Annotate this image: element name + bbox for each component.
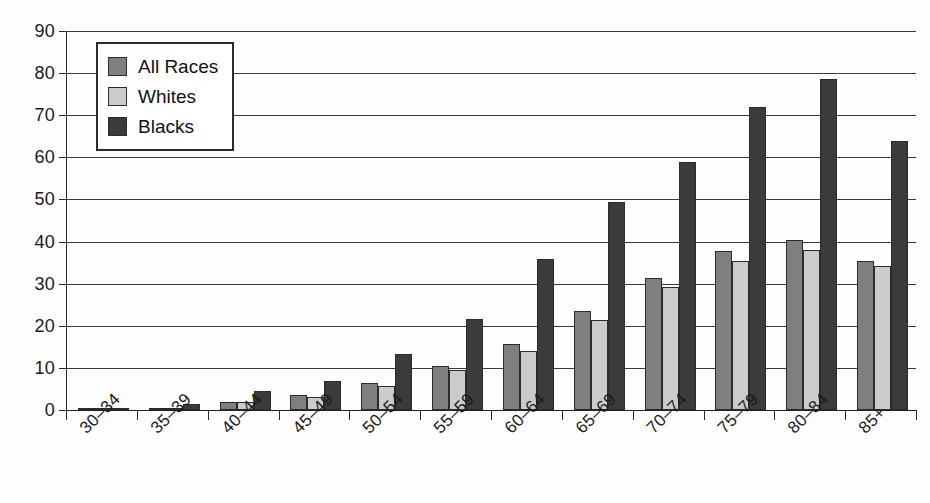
x-tick-40–44 (208, 411, 209, 420)
chart-legend: All Races Whites Blacks (96, 42, 234, 151)
bar-80–84-whites[interactable] (803, 250, 820, 410)
y-tick-label-wrap-40: 40 (0, 233, 55, 251)
x-tick-end (916, 411, 917, 420)
bar-85+-whites[interactable] (874, 266, 891, 410)
x-tick-70–74 (633, 411, 634, 420)
bar-group-65–69 (574, 31, 625, 410)
y-tick-label-wrap-80: 80 (0, 64, 55, 82)
bar-75–79-whites[interactable] (732, 261, 749, 410)
y-tick-0 (59, 410, 66, 411)
bar-group-70–74 (645, 31, 696, 410)
y-tick-label-30: 30 (11, 275, 55, 293)
bar-group-60–64 (503, 31, 554, 410)
y-tick-label-70: 70 (11, 106, 55, 124)
y-tick-label-20: 20 (11, 317, 55, 335)
bar-65–69-blacks[interactable] (608, 202, 625, 410)
x-tick-55–59 (420, 411, 421, 420)
x-tick-65–69 (562, 411, 563, 420)
bar-70–74-blacks[interactable] (679, 162, 696, 410)
legend-swatch-whites-icon (108, 87, 127, 106)
bar-group-85+ (857, 31, 908, 410)
y-tick-80 (59, 73, 66, 74)
y-tick-label-wrap-0: 0 (0, 401, 55, 419)
bar-60–64-blacks[interactable] (537, 259, 554, 410)
bar-55–59-all-races[interactable] (432, 366, 449, 410)
y-tick-10 (59, 368, 66, 369)
y-tick-label-wrap-60: 60 (0, 148, 55, 166)
y-tick-50 (59, 199, 66, 200)
legend-swatch-all-races-icon (108, 57, 127, 76)
y-tick-label-wrap-70: 70 (0, 106, 55, 124)
bar-80–84-all-races[interactable] (786, 240, 803, 410)
bar-group-50–54 (361, 31, 412, 410)
bar-group-55–59 (432, 31, 483, 410)
x-tick-80–84 (774, 411, 775, 420)
y-tick-label-60: 60 (11, 148, 55, 166)
x-tick-45–49 (279, 411, 280, 420)
x-tick-85+ (845, 411, 846, 420)
y-tick-label-10: 10 (11, 359, 55, 377)
y-tick-label-wrap-20: 20 (0, 317, 55, 335)
bar-85+-all-races[interactable] (857, 261, 874, 410)
bar-group-75–79 (715, 31, 766, 410)
bar-60–64-all-races[interactable] (503, 344, 520, 410)
legend-label-all-races: All Races (138, 57, 218, 76)
y-tick-label-wrap-30: 30 (0, 275, 55, 293)
bar-85+-blacks[interactable] (891, 141, 908, 410)
y-tick-label-40: 40 (11, 233, 55, 251)
bar-group-80–84 (786, 31, 837, 410)
y-tick-label-90: 90 (11, 22, 55, 40)
y-tick-70 (59, 115, 66, 116)
bar-65–69-all-races[interactable] (574, 311, 591, 410)
y-tick-label-wrap-50: 50 (0, 190, 55, 208)
legend-swatch-blacks-icon (108, 117, 127, 136)
x-tick-30–34 (66, 411, 67, 420)
bar-80–84-blacks[interactable] (820, 79, 837, 410)
y-tick-label-wrap-10: 10 (0, 359, 55, 377)
y-tick-30 (59, 284, 66, 285)
legend-item-2[interactable]: Blacks (108, 111, 218, 141)
bar-70–74-all-races[interactable] (645, 278, 662, 410)
y-tick-90 (59, 31, 66, 32)
legend-item-0[interactable]: All Races (108, 51, 218, 81)
y-tick-label-80: 80 (11, 64, 55, 82)
bar-group-45–49 (290, 31, 341, 410)
x-tick-50–54 (349, 411, 350, 420)
legend-label-blacks: Blacks (138, 117, 194, 136)
bar-chart: 30–3435–3940–4445–4950–5455–5960–6465–69… (0, 0, 930, 503)
y-tick-40 (59, 242, 66, 243)
x-tick-35–39 (137, 411, 138, 420)
y-tick-label-50: 50 (11, 190, 55, 208)
y-tick-60 (59, 157, 66, 158)
y-tick-20 (59, 326, 66, 327)
x-tick-75–79 (704, 411, 705, 420)
y-tick-label-wrap-90: 90 (0, 22, 55, 40)
legend-item-1[interactable]: Whites (108, 81, 218, 111)
bar-75–79-blacks[interactable] (749, 107, 766, 410)
y-tick-label-0: 0 (11, 401, 55, 419)
legend-label-whites: Whites (138, 87, 196, 106)
x-tick-60–64 (491, 411, 492, 420)
bar-75–79-all-races[interactable] (715, 251, 732, 410)
